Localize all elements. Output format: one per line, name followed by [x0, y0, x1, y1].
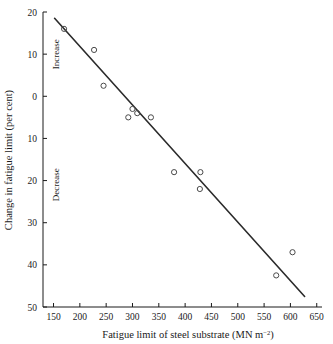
x-tick-label: 350	[152, 312, 167, 322]
y-tick-label: 10	[28, 134, 38, 144]
y-tick-label: 20	[28, 8, 38, 18]
x-tick-label: 150	[46, 312, 61, 322]
x-tick-label: 500	[231, 312, 246, 322]
x-axis-title: Fatigue limit of steel substrate (MN m−2…	[102, 329, 274, 342]
y-tick-label: 20	[28, 176, 38, 186]
y-axis-title: Change in fatigue limit (per cent)	[3, 89, 15, 230]
scatter-plot-svg: 1502002503003504004505005506006502010010…	[0, 0, 333, 344]
annotation-increase: Increase	[51, 39, 61, 69]
x-tick-label: 250	[99, 312, 114, 322]
y-tick-label: 50	[28, 303, 38, 313]
chart-figure: 1502002503003504004505005506006502010010…	[0, 0, 333, 344]
x-tick-label: 200	[73, 312, 88, 322]
y-tick-label: 30	[28, 218, 38, 228]
annotation-decrease: Decrease	[51, 168, 61, 201]
y-tick-label: 40	[28, 260, 38, 270]
x-tick-label: 650	[310, 312, 325, 322]
x-tick-label: 300	[125, 312, 140, 322]
x-tick-label: 600	[283, 312, 298, 322]
x-tick-label: 550	[257, 312, 272, 322]
x-tick-label: 450	[204, 312, 219, 322]
y-tick-label: 0	[32, 92, 37, 102]
y-tick-label: 10	[28, 50, 38, 60]
x-tick-label: 400	[178, 312, 193, 322]
